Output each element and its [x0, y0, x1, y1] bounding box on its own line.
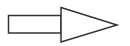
arrow-shaft: [9, 16, 62, 34]
diagram-canvas: [0, 0, 130, 46]
right-arrow-icon: [0, 0, 130, 46]
arrow-head: [61, 8, 117, 43]
